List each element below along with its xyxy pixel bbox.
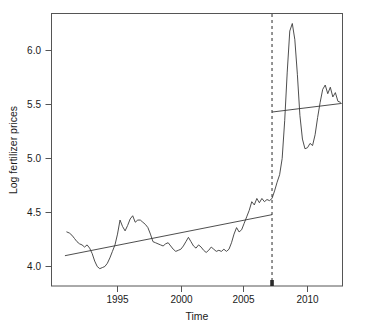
y-tick-label-6-0: 6.0 <box>27 45 41 56</box>
y-axis-title: Log fertilizer prices <box>7 106 19 194</box>
chart-figure: 6.0 5.5 5.0 4.5 4.0 1995 2000 2005 2010 … <box>0 0 365 327</box>
x-tick-label-1995: 1995 <box>106 294 129 305</box>
x-tick-label-2000: 2000 <box>170 294 193 305</box>
x-axis-title: Time <box>186 310 209 322</box>
y-tick-label-5-5: 5.5 <box>27 99 41 110</box>
y-tick-label-5-0: 5.0 <box>27 153 41 164</box>
plot-background <box>0 0 365 327</box>
y-tick-label-4-5: 4.5 <box>27 207 41 218</box>
x-tick-label-2010: 2010 <box>296 294 319 305</box>
fertilizer-price-plot: 6.0 5.5 5.0 4.5 4.0 1995 2000 2005 2010 … <box>0 0 365 327</box>
x-tick-label-2005: 2005 <box>232 294 255 305</box>
structural-break-base-marker <box>270 280 274 286</box>
y-tick-label-4-0: 4.0 <box>27 261 41 272</box>
